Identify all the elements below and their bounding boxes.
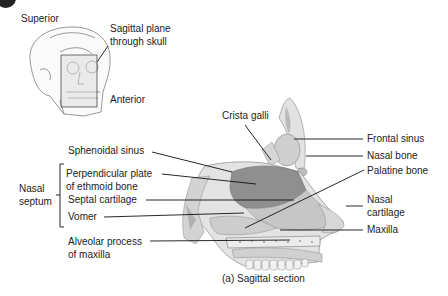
crista-galli-label: Crista galli (222, 110, 269, 122)
sagittal-plane-box (61, 55, 97, 107)
frontal-sinus-label: Frontal sinus (367, 133, 424, 145)
sagittal-plane-label-line1: Sagittal plane (110, 23, 171, 35)
alveolar-process-label-line2: of maxilla (68, 249, 110, 261)
sphenoidal-sinus-label: Sphenoidal sinus (68, 145, 144, 157)
nasal-cartilage-label-line2: cartilage (367, 207, 405, 219)
perpendicular-plate-label-line2: of ethmoid bone (66, 181, 138, 193)
alveolar-process-label-line1: Alveolar process (68, 236, 142, 248)
superior-label: Superior (21, 13, 59, 25)
figure-canvas: Superior Sagittal plane through skull An… (0, 0, 448, 296)
leader-crista-galli (245, 125, 271, 160)
section-badge-icon (0, 0, 16, 8)
nasal-septum-section (183, 98, 344, 270)
nasal-septum-bracket (56, 164, 64, 227)
palatine-bone-label: Palatine bone (367, 165, 428, 177)
septal-cartilage-label: Septal cartilage (68, 194, 137, 206)
nasal-cartilage-label-line1: Nasal (367, 194, 393, 206)
sagittal-plane-label-line2: through skull (110, 36, 167, 48)
nasal-bone-label: Nasal bone (367, 150, 418, 162)
perpendicular-plate-label-line1: Perpendicular plate (66, 168, 152, 180)
leader-sphenoidal-sinus (152, 152, 232, 172)
anterior-label: Anterior (110, 94, 145, 106)
nasal-septum-label-line2: septum (19, 196, 52, 208)
nasal-septum-label-line1: Nasal (19, 183, 45, 195)
figure-caption: (a) Sagittal section (222, 273, 305, 285)
maxilla-label: Maxilla (367, 224, 398, 236)
vomer-label: Vomer (68, 211, 97, 223)
